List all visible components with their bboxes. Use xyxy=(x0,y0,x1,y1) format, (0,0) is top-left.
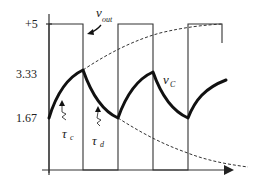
axes xyxy=(42,14,226,175)
tau-c-label-sub: c xyxy=(70,133,74,142)
tau-c-squiggle xyxy=(62,106,66,120)
vc-label: v xyxy=(163,72,169,87)
vc-label-sub: C xyxy=(170,80,176,89)
rc-waveform-diagram: +5 3.33 1.67 v out v C τ c τ d xyxy=(0,0,262,184)
vout-pointer-arrowhead-icon xyxy=(87,29,94,35)
tau-d-label: τ xyxy=(92,133,98,148)
y-label-high: +5 xyxy=(25,17,38,31)
vout-label-sub: out xyxy=(102,15,113,24)
y-label-upper: 3.33 xyxy=(16,67,37,81)
tau-c-label: τ xyxy=(62,126,68,141)
discharging-asymptote-dashed xyxy=(118,118,248,167)
vout-square-wave xyxy=(49,24,222,170)
tau-c-arrowhead-icon xyxy=(59,100,65,106)
tau-d-label-sub: d xyxy=(100,140,105,149)
tau-d-squiggle xyxy=(97,112,101,126)
tau-d-arrowhead-icon xyxy=(95,106,101,112)
y-label-lower: 1.67 xyxy=(16,111,37,125)
vc-capacitor-curve xyxy=(49,70,226,118)
x-axis-arrow-icon xyxy=(224,165,234,175)
